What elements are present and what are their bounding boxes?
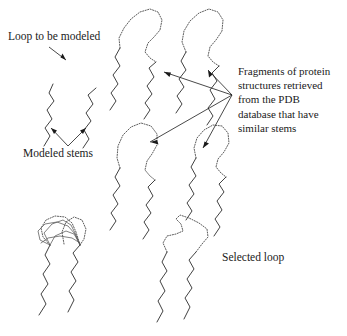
- superposition-stem-left: [39, 245, 50, 315]
- fragments-line-4: database that have: [238, 107, 346, 121]
- arrow-modeled-stems-left: [51, 128, 68, 146]
- label-fragments-of-protein-structures: Fragments of protein structures retrieve…: [238, 64, 346, 135]
- fragment-3-stem-right: [143, 180, 155, 239]
- fragment-2: [176, 9, 223, 125]
- fragments-line-1: Fragments of protein: [238, 64, 346, 78]
- fragment-3: [110, 123, 157, 239]
- loop-modeling-diagram: Loop to be modeled Modeled stems Fragmen…: [0, 0, 347, 336]
- fragment-1-loop: [119, 9, 162, 62]
- fragments-line-3: from the PDB: [238, 92, 346, 106]
- superposition-group: [38, 216, 86, 315]
- fragment-4-stem-left: [186, 158, 196, 220]
- selected-loop-group: [157, 215, 208, 322]
- arrow-modeled-stems-right: [68, 128, 86, 146]
- fragment-1-stem-right: [144, 62, 156, 119]
- arrow-to-fragment-3: [150, 95, 232, 145]
- fragment-1-stem-left: [110, 48, 120, 110]
- fragment-3-loop: [117, 123, 157, 180]
- result-stem-right: [184, 252, 196, 319]
- label-loop-to-be-modeled: Loop to be modeled: [8, 31, 100, 43]
- label-selected-loop: Selected loop: [222, 252, 284, 264]
- label-modeled-stems: Modeled stems: [23, 148, 93, 160]
- fragment-4-stem-right: [214, 177, 226, 236]
- fragments-line-5: similar stems: [238, 121, 346, 135]
- result-stem-left: [157, 252, 167, 322]
- query-stem-right: [83, 88, 96, 148]
- fragment-2-stem-left: [176, 52, 186, 113]
- fragments-line-2: structures retrieved: [238, 78, 346, 92]
- superposition-stem-right: [68, 245, 80, 312]
- diagram-canvas: [0, 0, 347, 336]
- fragment-1: [110, 9, 162, 119]
- result-selected-loop: [163, 215, 208, 252]
- arrow-to-fragment-1: [164, 72, 232, 95]
- query-stem-left: [44, 84, 54, 146]
- fragment-2-loop: [182, 9, 223, 66]
- candidate-loop-4: [50, 231, 80, 245]
- query-stems-group: [44, 84, 96, 148]
- fragment-3-stem-left: [110, 168, 120, 230]
- arrow-loop-to-be-modeled: [49, 47, 66, 60]
